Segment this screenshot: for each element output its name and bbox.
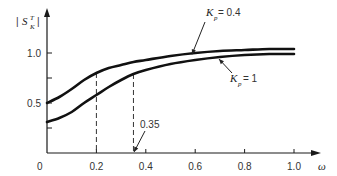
svg-text:S: S [22, 15, 28, 27]
annotation-0.35-label: 0.35 [140, 119, 160, 130]
svg-text:p: p [237, 80, 242, 88]
svg-text:T: T [30, 14, 35, 22]
y-tick-label: 0.5 [27, 98, 41, 109]
x-axis-label: ω [318, 160, 326, 172]
series-line-kp-1 [47, 54, 294, 122]
x-tick-label: 0.6 [188, 161, 202, 172]
chart: | S T K | ω 0 0.20.40.60.81.00.51.0 K p … [0, 0, 337, 176]
y-axis-label: | S T K | [16, 14, 40, 31]
svg-text:K: K [29, 23, 35, 31]
svg-text:|: | [37, 16, 40, 27]
x-tick-label: 1.0 [287, 161, 301, 172]
series-label-kp-0.4: K p = 0.4 [205, 6, 241, 22]
y-tick-label: 1.0 [27, 48, 41, 59]
x-axis-arrowhead [311, 150, 321, 156]
x-tick-label: 0.2 [89, 161, 103, 172]
svg-text:= 1: = 1 [243, 73, 258, 84]
origin-label: 0 [37, 161, 43, 172]
svg-text:K: K [205, 6, 214, 18]
y-axis-arrowhead [44, 8, 50, 17]
x-tick-label: 0.8 [238, 161, 252, 172]
svg-text:|: | [16, 16, 19, 27]
x-tick-label: 0.4 [139, 161, 153, 172]
leader-arrow-kp-0.4 [192, 22, 205, 54]
svg-text:K: K [229, 72, 238, 84]
svg-text:= 0.4: = 0.4 [218, 7, 241, 18]
series-label-kp-1: K p = 1 [229, 72, 258, 88]
